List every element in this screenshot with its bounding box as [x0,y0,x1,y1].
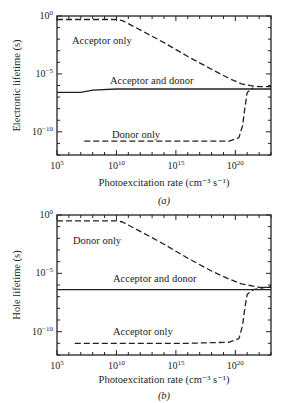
series-line [84,88,253,141]
tick-label: 100 [40,9,54,21]
panel-label: (b) [158,390,171,402]
series-label: Donor only [112,129,161,140]
series-label: Acceptor only [72,35,133,46]
tick-label: 10−10 [32,125,53,137]
chart-panel-b: 10510101015102010010−510−10Donor onlyAcc… [11,208,271,402]
series-label: Acceptor and donor [110,75,194,86]
y-axis-label: Hole lifetime (s) [11,250,23,320]
series-label: Donor only [73,235,122,246]
series-line [75,286,271,343]
tick-label: 10−10 [32,325,53,337]
tick-label: 105 [50,359,64,371]
series-label: Acceptor only [113,326,174,337]
y-axis-label: Electronic lifetime (s) [11,39,23,132]
tick-label: 1020 [227,359,245,371]
tick-label: 1010 [108,359,126,371]
panel-label: (a) [158,195,171,207]
series-line [57,89,271,92]
series-label: Acceptor and donor [113,273,197,284]
tick-label: 10−5 [36,67,54,79]
x-axis-label: Photoexcitation rate (cm⁻³ s⁻¹) [99,374,230,386]
tick-label: 100 [40,208,54,220]
tick-label: 1010 [108,159,126,171]
chart-panel-a: 10510101015102010010−510−10Acceptor only… [11,9,271,207]
tick-label: 1015 [167,359,185,371]
tick-label: 1020 [227,159,245,171]
tick-label: 10−5 [36,266,54,278]
tick-label: 1015 [167,159,185,171]
tick-label: 105 [50,159,64,171]
figure: 10510101015102010010−510−10Acceptor only… [0,0,283,403]
x-axis-label: Photoexcitation rate (cm⁻³ s⁻¹) [99,177,230,189]
